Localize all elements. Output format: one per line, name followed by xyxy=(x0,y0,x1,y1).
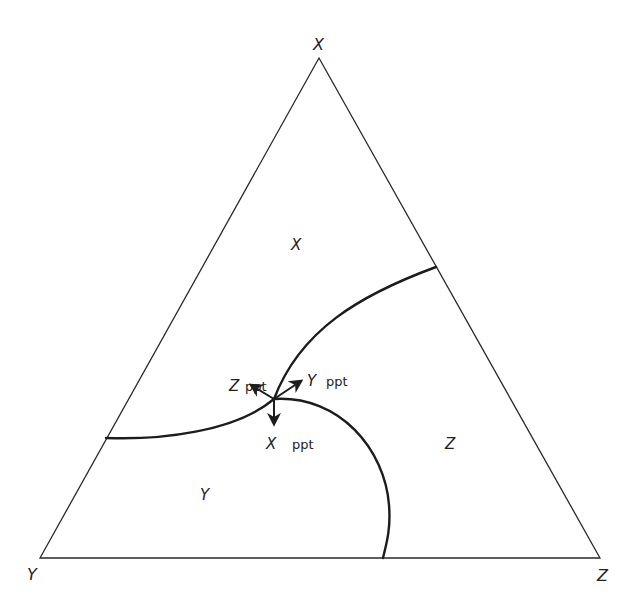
svg-text:Y: Y xyxy=(307,372,318,390)
region-label-y: Y xyxy=(200,486,211,504)
svg-text:ppt: ppt xyxy=(245,379,267,394)
boundary-x-y xyxy=(106,399,274,438)
svg-text:ppt: ppt xyxy=(292,437,314,452)
boundary-x-z xyxy=(274,267,436,399)
vertex-label-bottom-left: Y xyxy=(27,565,38,584)
svg-text:ppt: ppt xyxy=(326,374,348,389)
svg-text:X: X xyxy=(265,435,277,453)
label-y-ppt: Y ppt xyxy=(307,372,348,390)
label-x-ppt: X ppt xyxy=(265,435,314,453)
boundary-y-z xyxy=(274,399,389,558)
vertex-label-bottom-right: Z xyxy=(596,566,609,585)
region-label-z: Z xyxy=(444,435,456,453)
vertex-label-top: X xyxy=(312,35,325,54)
svg-text:Z: Z xyxy=(228,377,240,395)
region-label-x: X xyxy=(290,236,302,254)
triangle-outline xyxy=(40,58,600,558)
ternary-phase-diagram: X Y Z X Z Y Z ppt Y ppt X ppt xyxy=(0,0,642,606)
label-z-ppt: Z ppt xyxy=(228,377,267,395)
